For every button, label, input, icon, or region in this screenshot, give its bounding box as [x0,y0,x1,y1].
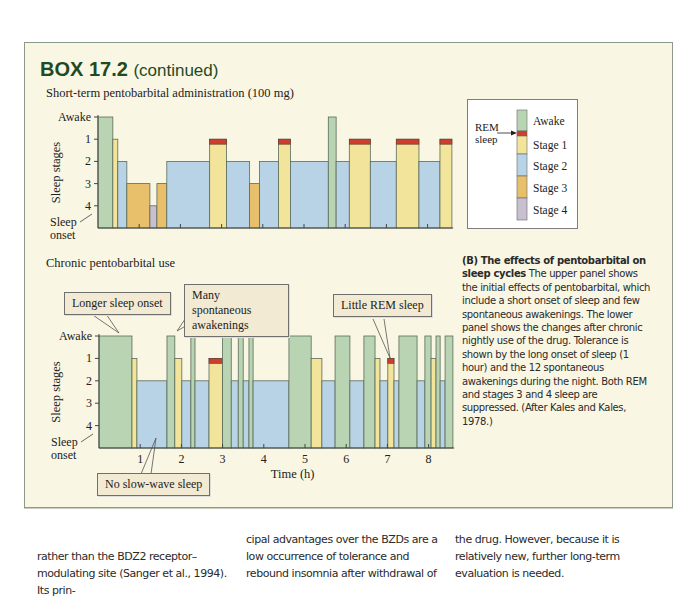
caption-text: The upper panel shows the initial effect… [462,268,650,426]
callout-little-rem: Little REM sleep [333,294,432,317]
pointer-little-rem [373,319,390,358]
callout-many-awakenings: Many spontaneous awakenings [184,284,289,337]
body-column-3: the drug. However, because it is relativ… [455,531,651,582]
body-column-2: cipal advantages over the BZDs are a low… [246,531,442,582]
callout-many-awakenings-line2: awakenings [192,318,249,332]
pointer-no-sws [141,438,156,474]
figure-caption: (B) The effects of pentobarbital on slee… [462,254,652,428]
body-column-1: rather than the BDZ2 receptor–modulating… [37,548,233,599]
callout-longer-onset: Longer sleep onset [64,292,171,315]
callout-many-awakenings-line1: Many spontaneous [192,288,251,317]
callout-no-slow-wave: No slow-wave sleep [97,473,210,496]
